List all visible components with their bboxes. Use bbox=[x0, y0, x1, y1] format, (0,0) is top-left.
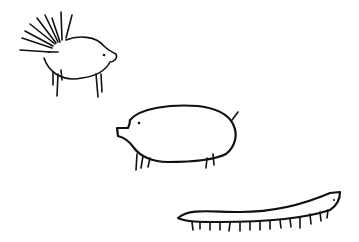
pig-figure bbox=[117, 106, 238, 170]
porcupine-quills bbox=[20, 12, 72, 52]
drawing-canvas bbox=[0, 0, 359, 242]
centipede-figure bbox=[178, 192, 340, 231]
porcupine-figure bbox=[20, 12, 117, 97]
